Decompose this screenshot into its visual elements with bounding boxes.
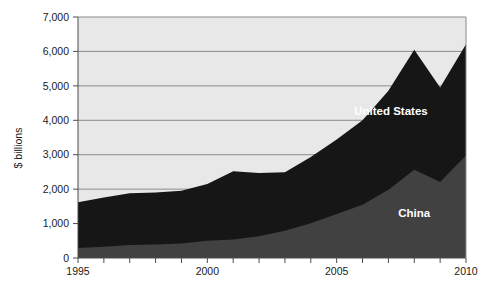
y-tick-label-6000: 6,000 <box>43 45 69 57</box>
y-tick-label-5000: 5,000 <box>43 80 69 92</box>
x-axis: 1995200020052010 <box>66 258 478 277</box>
y-tick-label-7000: 7,000 <box>43 11 69 23</box>
y-tick-label-2000: 2,000 <box>43 183 69 195</box>
stacked-area-chart: 01,0002,0003,0004,0005,0006,0007,000 199… <box>0 0 494 289</box>
x-tick-label-2010: 2010 <box>454 265 478 277</box>
series-label-china: China <box>398 207 431 219</box>
chart-container: 01,0002,0003,0004,0005,0006,0007,000 199… <box>0 0 494 289</box>
y-tick-label-3000: 3,000 <box>43 148 69 160</box>
series-label-united-states: United States <box>354 105 428 117</box>
x-tick-label-2005: 2005 <box>325 265 349 277</box>
y-tick-label-4000: 4,000 <box>43 114 69 126</box>
x-tick-label-1995: 1995 <box>66 265 90 277</box>
x-tick-label-2000: 2000 <box>196 265 220 277</box>
y-tick-label-1000: 1,000 <box>43 217 69 229</box>
y-tick-label-0: 0 <box>63 252 69 264</box>
y-axis: 01,0002,0003,0004,0005,0006,0007,000 <box>43 11 78 264</box>
y-axis-title: $ billions <box>12 128 24 169</box>
